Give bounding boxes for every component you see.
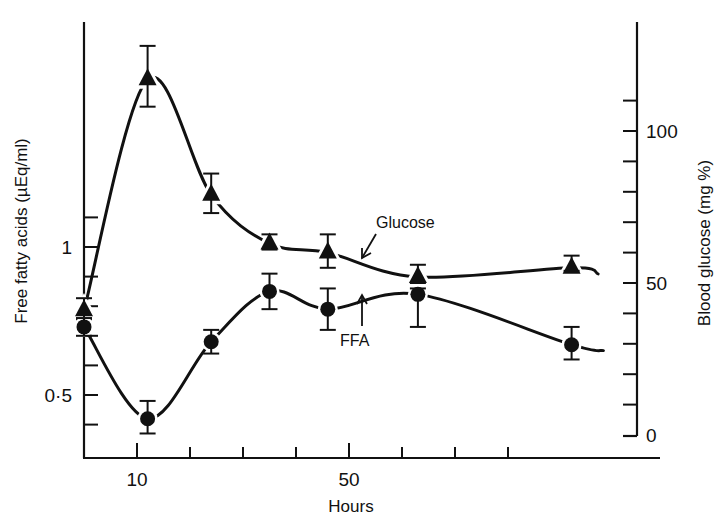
circle-marker-icon	[77, 319, 92, 334]
glucose-point	[74, 298, 94, 319]
ffa-arrow-icon	[357, 295, 367, 326]
glucose-curve	[84, 77, 598, 310]
right-tick-label: 100	[646, 121, 678, 142]
right-axis-title: Blood glucose (mg %)	[695, 160, 714, 326]
circle-marker-icon	[204, 334, 219, 349]
circle-marker-icon	[140, 411, 155, 426]
glucose-arrow-icon	[362, 234, 376, 258]
ffa-point	[562, 327, 582, 360]
right-tick-label: 50	[646, 273, 667, 294]
glucose-annotation: Glucose	[376, 214, 435, 231]
right-tick-label: 0	[646, 425, 657, 446]
x-tick-label: 10	[126, 469, 147, 490]
ffa-point	[74, 317, 94, 337]
glucose-point	[562, 256, 582, 275]
labels: Hours Free fatty acids (µEq/ml) Blood gl…	[12, 138, 714, 516]
circle-marker-icon	[320, 302, 335, 317]
ffa-point	[260, 274, 280, 310]
circle-marker-icon	[410, 287, 425, 302]
ffa-point	[408, 284, 428, 327]
dual-axis-line-chart: 10500·51050100 Hours Free fatty acids (µ…	[0, 0, 723, 528]
left-tick-label: 0·5	[45, 385, 72, 406]
glucose-point	[260, 231, 280, 250]
left-tick-label: 1	[61, 237, 72, 258]
ffa-point	[318, 288, 338, 329]
glucose-point	[138, 46, 158, 107]
circle-marker-icon	[262, 284, 277, 299]
left-axis-title: Free fatty acids (µEq/ml)	[12, 138, 31, 324]
glucose-point	[318, 234, 338, 267]
curves	[84, 77, 603, 419]
circle-marker-icon	[564, 337, 579, 352]
data-points	[74, 46, 582, 434]
ffa-annotation: FFA	[340, 332, 370, 349]
glucose-point	[408, 265, 428, 284]
ffa-curve	[84, 291, 603, 419]
x-tick-label: 50	[338, 469, 359, 490]
ffa-point	[138, 401, 158, 434]
x-axis-title: Hours	[328, 497, 373, 516]
